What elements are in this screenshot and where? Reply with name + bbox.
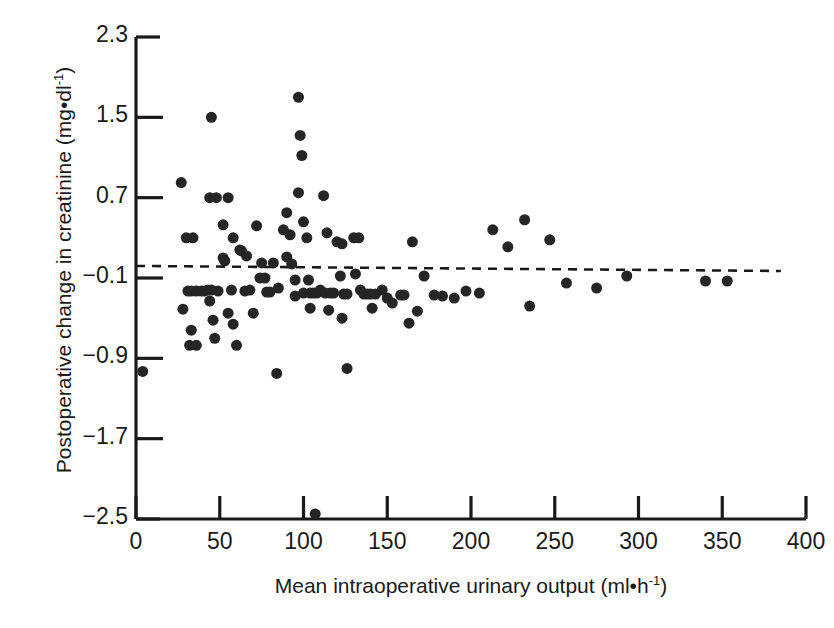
- x-tick-label-2: 100: [284, 528, 322, 555]
- y-axis-title-main: Postoperative change in creatinine (mg•d…: [52, 85, 75, 473]
- x-tick-label-8: 400: [787, 528, 825, 555]
- x-axis-title-tail: ): [660, 574, 667, 597]
- y-axis-title-tail: ): [52, 67, 75, 74]
- x-tick-label-7: 350: [703, 528, 741, 555]
- x-tick-label-0: 0: [130, 528, 143, 555]
- x-axis-title-main: Mean intraoperative urinary output (ml•h: [275, 574, 649, 597]
- x-tick-label-1: 50: [207, 528, 233, 555]
- x-tick-label-5: 250: [536, 528, 574, 555]
- x-tick-label-6: 300: [619, 528, 657, 555]
- x-axis-title: Mean intraoperative urinary output (ml•h…: [136, 574, 806, 598]
- x-tick-label-3: 150: [368, 528, 406, 555]
- scatter-plot-figure: 2.31.50.7−0.1−0.9−1.7−2.5 05010015020025…: [0, 0, 834, 628]
- y-axis-title: Postoperative change in creatinine (mg•d…: [46, 10, 82, 530]
- x-axis-title-superscript: -1: [649, 573, 661, 588]
- x-tick-label-4: 200: [452, 528, 490, 555]
- y-axis-title-superscript: -1: [51, 74, 66, 86]
- x-tick-labels: 050100150200250300350400: [0, 0, 834, 628]
